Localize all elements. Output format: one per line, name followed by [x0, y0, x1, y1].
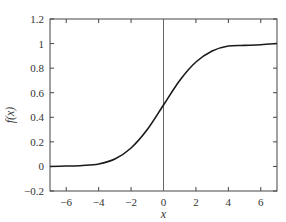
sigmoid-line-chart: −6−4−20246−0.200.20.40.60.811.2 x f(x) [0, 0, 286, 222]
x-tick-label: −2 [125, 196, 137, 208]
x-tick-label: 2 [193, 196, 199, 208]
y-tick-label: 0 [39, 160, 45, 172]
y-tick-label: −0.2 [24, 185, 44, 197]
y-tick-label: 1 [39, 38, 45, 50]
y-tick-label: 0.6 [30, 87, 44, 99]
y-tick-label: 1.2 [30, 13, 44, 25]
tick-labels: −6−4−20246−0.200.20.40.60.811.2 [24, 13, 264, 208]
y-axis-label: f(x) [3, 107, 17, 124]
x-tick-label: 6 [258, 196, 264, 208]
y-tick-label: 0.4 [30, 111, 44, 123]
y-tick-label: 0.2 [30, 136, 44, 148]
x-axis-label: x [160, 207, 167, 221]
y-tick-label: 0.8 [30, 62, 44, 74]
x-tick-label: 4 [226, 196, 232, 208]
x-tick-label: −4 [93, 196, 105, 208]
x-tick-label: −6 [60, 196, 72, 208]
